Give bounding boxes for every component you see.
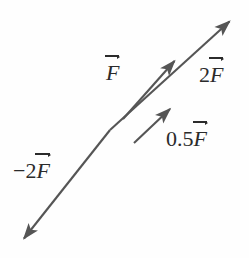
vector-label-F: F	[106, 62, 120, 84]
vector-label-negative-2F: −2F	[13, 160, 51, 182]
vector-label-2F-coefficient: 2	[199, 62, 210, 87]
vector-label-negative-2F-symbol: F	[36, 160, 50, 182]
vector-canvas	[0, 0, 249, 258]
vector-half-F-shaft	[134, 109, 170, 143]
vector-label-half-F-symbol: F	[194, 128, 208, 150]
vector-negative-2F-shaft	[24, 130, 110, 239]
vector-label-negative-2F-coefficient: −2	[13, 158, 36, 183]
vector-label-2F-symbol: F	[210, 64, 224, 86]
vector-F-shaft	[123, 61, 175, 119]
vector-label-half-F: 0.5F	[166, 128, 208, 150]
vector-diagram-figure: F 2F 0.5F −2F	[0, 0, 249, 258]
vector-label-2F: 2F	[199, 64, 224, 86]
vector-negative-2F	[24, 130, 110, 239]
vector-label-F-symbol: F	[106, 62, 120, 84]
vector-label-half-F-coefficient: 0.5	[166, 126, 194, 151]
vector-half-F	[134, 109, 170, 143]
vector-F	[123, 61, 175, 119]
